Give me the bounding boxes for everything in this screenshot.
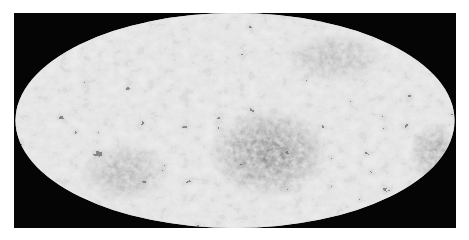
sky-map-panel bbox=[14, 13, 456, 228]
all-sky-map bbox=[14, 13, 456, 228]
figure-caption bbox=[0, 233, 469, 240]
